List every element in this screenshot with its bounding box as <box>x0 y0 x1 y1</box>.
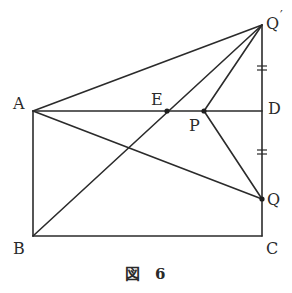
segment-aq <box>33 111 262 199</box>
point-e-dot <box>164 108 169 113</box>
caption-figure-char: 図 <box>125 265 140 283</box>
point-p-dot <box>201 108 206 113</box>
segment-b-qprime <box>33 25 262 236</box>
label-c: C <box>266 239 278 258</box>
label-q-prime: Q <box>266 14 279 33</box>
segment-a-qprime <box>33 25 262 111</box>
segment-pq <box>204 111 262 199</box>
label-q-prime-mark: ′ <box>280 9 283 23</box>
label-q: Q <box>267 190 280 209</box>
label-e: E <box>151 90 163 109</box>
label-a: A <box>12 94 25 113</box>
segment-p-qprime <box>204 25 262 111</box>
label-p: P <box>189 116 200 135</box>
label-d: D <box>268 99 281 118</box>
point-q-dot <box>259 196 264 201</box>
geometry-figure: A B C D E P Q Q ′ 図 6 <box>0 0 292 293</box>
label-b: B <box>13 239 25 258</box>
caption-figure-number: 6 <box>155 265 165 283</box>
